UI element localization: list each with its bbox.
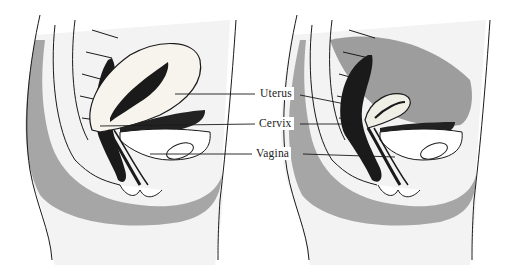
- label-vagina: Vagina: [254, 147, 291, 160]
- anatomy-figure: Uterus Cervix Vagina: [0, 0, 509, 278]
- left-panel: [26, 15, 236, 265]
- figure-drawing: [0, 0, 509, 278]
- right-panel: [281, 15, 490, 265]
- label-uterus: Uterus: [258, 87, 294, 100]
- label-cervix: Cervix: [257, 117, 294, 130]
